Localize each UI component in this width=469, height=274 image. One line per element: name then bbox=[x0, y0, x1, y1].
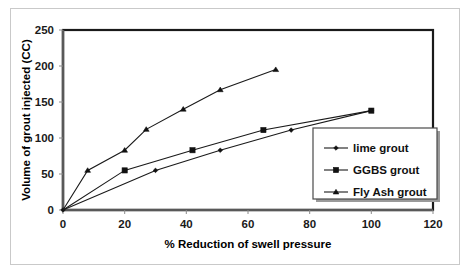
x-tick-label-0: 0 bbox=[60, 218, 66, 230]
x-tick-label-120: 120 bbox=[423, 218, 442, 230]
data-point bbox=[143, 127, 149, 132]
data-point bbox=[289, 128, 294, 133]
legend-label: lime grout bbox=[353, 142, 409, 154]
data-point bbox=[369, 108, 374, 113]
series-fly-ash-grout bbox=[63, 67, 279, 210]
y-tick-label-250: 250 bbox=[35, 24, 54, 36]
line-chart-plot: 0 50 100 150 200 250 0 20 40 60 80 100 1… bbox=[0, 0, 469, 274]
data-point bbox=[218, 148, 223, 153]
data-point bbox=[180, 107, 186, 112]
legend-label: GGBS grout bbox=[353, 164, 420, 176]
y-tick-label-0: 0 bbox=[48, 204, 54, 216]
y-tick-label-200: 200 bbox=[35, 60, 54, 72]
legend-marker-square-icon bbox=[333, 167, 338, 172]
x-tick-label-20: 20 bbox=[118, 218, 131, 230]
data-point bbox=[273, 67, 279, 72]
y-tick-label-50: 50 bbox=[41, 168, 54, 180]
x-tick-label-100: 100 bbox=[362, 218, 381, 230]
x-tick-label-80: 80 bbox=[303, 218, 316, 230]
data-point bbox=[122, 168, 127, 173]
data-point bbox=[190, 148, 195, 153]
x-tick-label-40: 40 bbox=[180, 218, 193, 230]
y-tick-label-100: 100 bbox=[35, 132, 54, 144]
y-tick-label-150: 150 bbox=[35, 96, 54, 108]
chart-container: 0 50 100 150 200 250 0 20 40 60 80 100 1… bbox=[0, 0, 469, 274]
data-point bbox=[85, 168, 91, 173]
chart-legend: lime groutGGBS groutFly Ash grout bbox=[313, 128, 440, 202]
legend-label: Fly Ash grout bbox=[353, 186, 427, 198]
data-point bbox=[153, 168, 158, 173]
x-tick-label-60: 60 bbox=[242, 218, 255, 230]
y-axis-title: Volume of grout injected (CC) bbox=[20, 39, 32, 201]
data-point bbox=[261, 127, 266, 132]
x-axis-title: % Reduction of swell pressure bbox=[165, 238, 332, 250]
